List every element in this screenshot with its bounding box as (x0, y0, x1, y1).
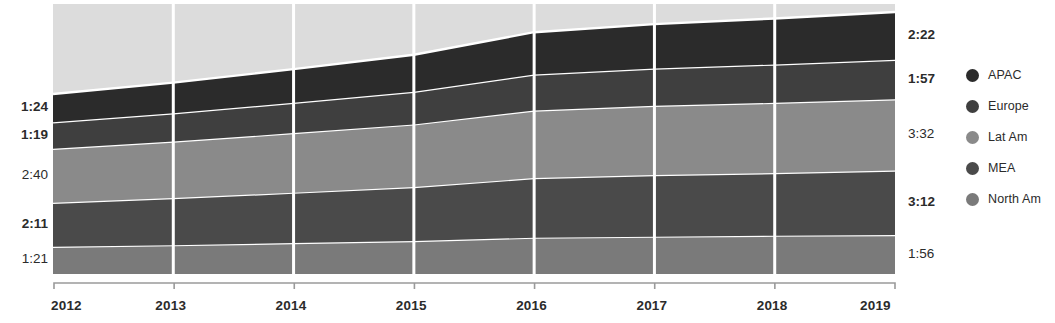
legend-swatch-icon (966, 162, 979, 175)
left-value-label-europe: 1:19 (4, 127, 48, 142)
right-value-label-mea: 3:12 (908, 194, 935, 209)
x-axis-svg (53, 282, 896, 294)
x-tick-label-2015: 2015 (396, 298, 427, 313)
x-tick-label-2016: 2016 (516, 298, 547, 313)
left-value-label-north-am: 1:21 (4, 251, 48, 266)
legend-label: Lat Am (988, 130, 1028, 144)
x-tick-label-2018: 2018 (757, 298, 788, 313)
right-value-label-lat-am: 3:32 (908, 126, 934, 141)
legend-item-lat-am[interactable]: Lat Am (966, 122, 1055, 152)
legend-swatch-icon (966, 193, 979, 206)
x-tick-label-2014: 2014 (276, 298, 307, 313)
legend-item-apac[interactable]: APAC (966, 60, 1055, 90)
left-value-label-mea: 2:11 (4, 216, 48, 231)
x-tick-label-2019: 2019 (860, 298, 891, 313)
legend-label: MEA (988, 161, 1015, 175)
chart-plot-area (53, 4, 895, 274)
legend-label: Europe (988, 99, 1029, 113)
right-value-label-europe: 1:57 (908, 71, 935, 86)
legend-swatch-icon (966, 69, 979, 82)
x-tick-label-2017: 2017 (636, 298, 667, 313)
chart-legend: APACEuropeLat AmMEANorth Am (966, 60, 1055, 215)
x-axis (53, 282, 896, 294)
legend-item-europe[interactable]: Europe (966, 91, 1055, 121)
right-value-label-apac: 2:22 (908, 27, 935, 42)
legend-swatch-icon (966, 100, 979, 113)
legend-item-north-am[interactable]: North Am (966, 184, 1055, 214)
chart-svg (53, 4, 895, 274)
axis-line (54, 283, 895, 289)
legend-swatch-icon (966, 131, 979, 144)
left-value-label-lat-am: 2:40 (4, 167, 48, 182)
legend-item-mea[interactable]: MEA (966, 153, 1055, 183)
left-value-label-apac: 1:24 (4, 99, 48, 114)
stacked-area-chart-figure: 20122013201420152016201720182019 1:241:1… (0, 0, 1055, 323)
x-tick-label-2013: 2013 (155, 298, 186, 313)
legend-label: APAC (988, 68, 1022, 82)
right-value-label-north-am: 1:56 (908, 246, 934, 261)
legend-label: North Am (988, 192, 1041, 206)
x-tick-label-2012: 2012 (51, 298, 82, 313)
